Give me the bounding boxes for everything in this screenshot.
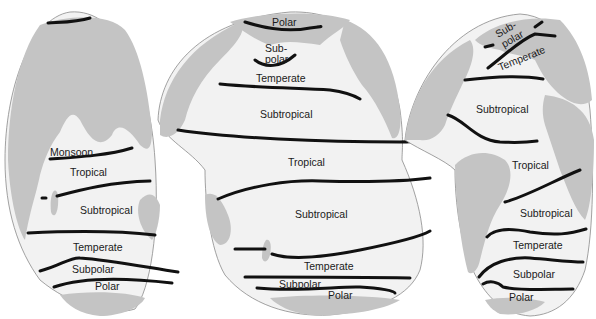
zone-label-polar-south: Polar — [328, 289, 353, 301]
zone-label-temperate-south: Temperate — [304, 260, 354, 272]
zone-label-temperate-north: Temperate — [256, 72, 306, 84]
pacific-ocean-lobe: Polar Sub- polar Temperate Subtropical T… — [158, 12, 430, 315]
zone-label-subtropical-south: Subtropical — [520, 207, 573, 219]
zone-label-subpolar: Subpolar — [72, 263, 115, 275]
zone-label-subpolar-south: Subpolar — [513, 268, 556, 280]
antarctica-indian-land — [60, 292, 145, 316]
zone-label-polar: Polar — [95, 280, 120, 292]
zone-label-tropical: Tropical — [512, 159, 549, 171]
zone-label-tropical: Tropical — [288, 156, 325, 168]
zone-label-subpolar-south: Subpolar — [279, 278, 322, 290]
zone-label-subtropical-south: Subtropical — [295, 208, 348, 220]
indian-ocean-lobe: Monsoon Tropical Subtropical Temperate S… — [5, 12, 178, 316]
zone-label-polar-south: Polar — [509, 291, 534, 303]
zone-label-temperate-south: Temperate — [513, 239, 563, 251]
zone-label-monsoon: Monsoon — [50, 146, 93, 158]
zone-label-subtropical-north: Subtropical — [260, 108, 313, 120]
zone-label-subtropical-north: Subtropical — [476, 103, 529, 115]
zone-label-polar-north: Polar — [272, 16, 297, 28]
zone-label-temperate: Temperate — [73, 241, 123, 253]
boundary-temperate-subpolar-south — [245, 277, 410, 278]
atlantic-ocean-lobe: Sub- polar Temperate Subtropical Tropica… — [405, 14, 594, 316]
boundary-subpolar-north-west — [485, 45, 493, 47]
zone-label-subtropical: Subtropical — [80, 204, 133, 216]
zone-label-tropical: Tropical — [70, 166, 107, 178]
zone-label-subpolar-north-2: polar — [265, 53, 289, 65]
ocean-zones-map: Monsoon Tropical Subtropical Temperate S… — [0, 0, 596, 319]
